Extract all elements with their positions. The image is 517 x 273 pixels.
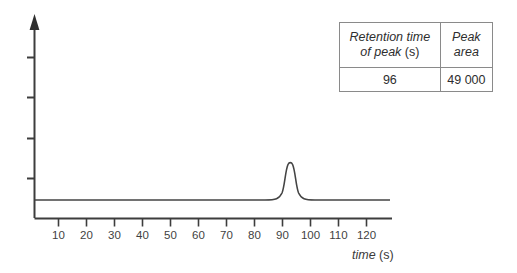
cell-peak-area: 49 000	[440, 68, 492, 92]
x-axis-title: time (s)	[352, 248, 394, 262]
table-header-retention-time-unit: (s)	[405, 45, 420, 59]
x-tick-label: 80	[240, 228, 270, 242]
x-tick-label: 90	[268, 228, 298, 242]
chromatogram-figure: 10 20 30 40 50 60 70 80 90 100 110 120 t…	[0, 0, 517, 273]
x-tick-label: 120	[352, 228, 382, 242]
x-tick-label: 10	[44, 228, 74, 242]
x-axis-ticks	[59, 219, 367, 227]
x-tick-label: 40	[128, 228, 158, 242]
x-tick-label: 30	[100, 228, 130, 242]
y-axis	[30, 14, 40, 218]
x-axis-title-unit: (s)	[379, 248, 394, 262]
x-tick-label: 110	[324, 228, 354, 242]
table-header-row: Retention time of peak (s) Peak area	[340, 23, 493, 68]
peak-data-table: Retention time of peak (s) Peak area 96 …	[339, 22, 493, 92]
table-header-peak-area: Peak area	[440, 23, 492, 68]
x-axis-title-variable: time	[352, 248, 376, 262]
x-tick-label: 20	[72, 228, 102, 242]
table-row: 96 49 000	[340, 68, 493, 92]
x-tick-label: 50	[156, 228, 186, 242]
detector-signal-trace	[35, 163, 390, 200]
cell-retention-time: 96	[340, 68, 441, 92]
x-tick-label: 60	[184, 228, 214, 242]
y-axis-ticks	[27, 58, 35, 179]
x-tick-label: 100	[296, 228, 326, 242]
table-header-retention-time: Retention time of peak (s)	[340, 23, 441, 68]
table-header-peak-area-main: Peak area	[452, 30, 481, 59]
x-tick-label: 70	[212, 228, 242, 242]
